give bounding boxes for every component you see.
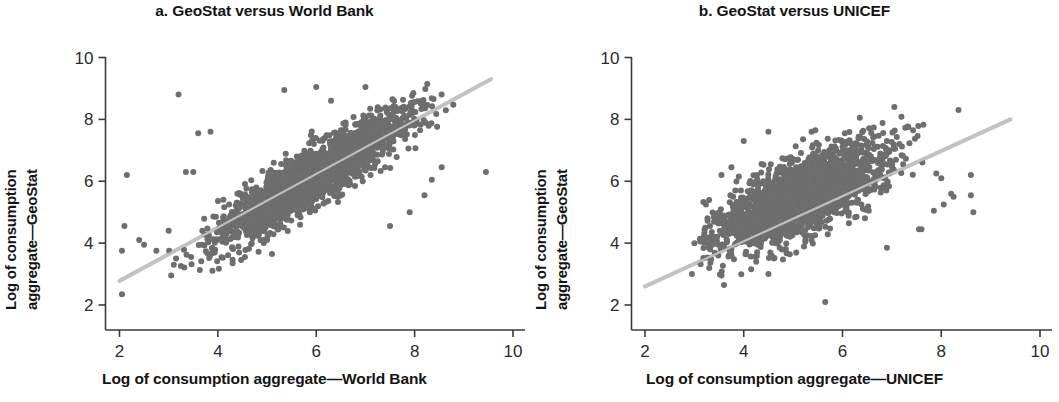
panel-b: b. GeoStat versus UNICEF Log of consumpt…	[530, 0, 1059, 402]
panel-b-x-axis-label: Log of consumption aggregate—UNICEF	[530, 370, 1059, 388]
x-tick-label: 2	[115, 342, 124, 361]
panel-b-plot: 246810246810	[530, 0, 1059, 402]
x-tick-label: 2	[640, 342, 649, 361]
x-tick-label: 10	[504, 342, 523, 361]
panel-a-plot: 246810246810	[0, 0, 529, 402]
y-tick-label: 10	[75, 49, 94, 68]
y-tick-label: 4	[84, 234, 93, 253]
y-tick-label: 2	[84, 296, 93, 315]
y-tick-label: 6	[610, 172, 619, 191]
x-tick-label: 8	[410, 342, 419, 361]
y-tick-label: 8	[84, 110, 93, 129]
x-tick-label: 10	[1031, 342, 1050, 361]
x-tick-label: 4	[739, 342, 748, 361]
y-tick-label: 6	[84, 172, 93, 191]
x-tick-label: 6	[838, 342, 847, 361]
y-tick-label: 8	[610, 110, 619, 129]
panel-a-x-axis-label: Log of consumption aggregate—World Bank	[0, 370, 529, 388]
panel-a: a. GeoStat versus World Bank Log of cons…	[0, 0, 529, 402]
y-tick-label: 2	[610, 296, 619, 315]
x-tick-label: 8	[937, 342, 946, 361]
x-tick-label: 6	[312, 342, 321, 361]
y-tick-label: 4	[610, 234, 619, 253]
figure-scatter-comparison: a. GeoStat versus World Bank Log of cons…	[0, 0, 1059, 402]
y-tick-label: 10	[601, 49, 620, 68]
x-tick-label: 4	[213, 342, 222, 361]
